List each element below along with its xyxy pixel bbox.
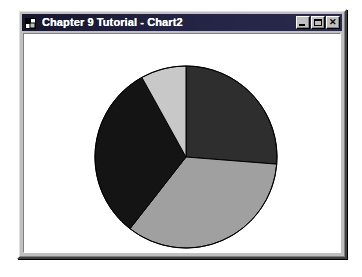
pie-slice[interactable] <box>186 66 277 164</box>
window-frame-inner: Chapter 9 Tutorial - Chart2 ✕ <box>19 11 345 257</box>
maximize-icon <box>314 19 322 26</box>
minimize-icon <box>299 24 305 26</box>
close-button[interactable]: ✕ <box>326 16 340 29</box>
pie-chart <box>24 34 341 253</box>
title-bar[interactable]: Chapter 9 Tutorial - Chart2 ✕ <box>22 14 342 31</box>
maximize-button[interactable] <box>311 16 325 29</box>
window-controls: ✕ <box>296 16 341 29</box>
application-window: Chapter 9 Tutorial - Chart2 ✕ <box>17 9 347 259</box>
minimize-button-bevel <box>297 17 309 28</box>
vb-form-icon <box>24 16 38 29</box>
window-title: Chapter 9 Tutorial - Chart2 <box>42 16 296 29</box>
desktop-background: Chapter 9 Tutorial - Chart2 ✕ <box>0 0 362 277</box>
minimize-button[interactable] <box>296 16 310 29</box>
close-icon: ✕ <box>327 17 339 28</box>
chart-canvas[interactable] <box>24 34 340 252</box>
client-area <box>23 33 341 253</box>
pie-slice-group <box>95 66 277 248</box>
